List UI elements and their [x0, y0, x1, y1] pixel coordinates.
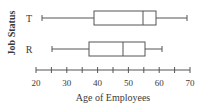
y-axis-label: Job Status	[6, 11, 17, 56]
x-axis	[36, 67, 190, 73]
category-label-r: R	[26, 44, 33, 55]
boxplot-r	[52, 42, 162, 56]
x-tick-50: 50	[124, 78, 134, 88]
x-axis-label: Age of Employees	[76, 92, 151, 103]
x-tick-30: 30	[62, 78, 72, 88]
box-plot-chart: Job Status T R 20 30 40 50 6	[0, 0, 204, 108]
x-tick-60: 60	[155, 78, 165, 88]
category-label-t: T	[26, 13, 32, 24]
x-tick-70: 70	[186, 78, 196, 88]
boxplot-t	[42, 11, 187, 25]
x-tick-20: 20	[32, 78, 42, 88]
x-tick-40: 40	[93, 78, 103, 88]
